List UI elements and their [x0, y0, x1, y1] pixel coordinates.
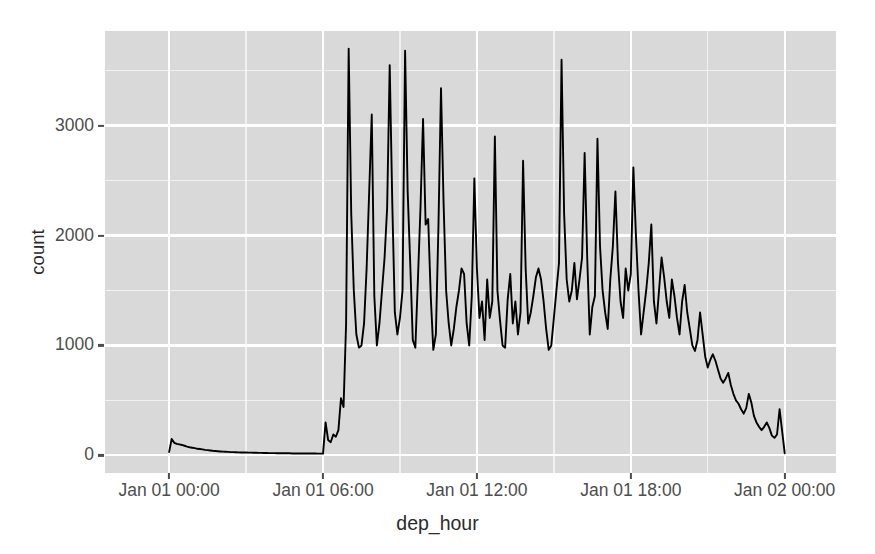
x-tick-label: Jan 01 06:00 — [272, 482, 373, 500]
x-tick-label: Jan 02 00:00 — [734, 482, 835, 500]
y-tick-label: 3000 — [55, 117, 94, 135]
y-tick-mark — [98, 344, 104, 346]
chart-figure: 0100020003000 count Jan 01 00:00Jan 01 0… — [0, 0, 875, 554]
x-tick-mark — [784, 473, 786, 479]
y-tick-label: 1000 — [55, 337, 94, 355]
x-tick-label: Jan 01 12:00 — [426, 482, 527, 500]
y-tick-mark — [98, 234, 104, 236]
y-tick-label: 0 — [84, 447, 94, 465]
x-axis-title: dep_hour — [0, 512, 875, 535]
x-tick-label: Jan 01 00:00 — [119, 482, 220, 500]
plot-panel — [105, 31, 836, 473]
x-tick-label: Jan 01 18:00 — [580, 482, 681, 500]
y-tick-mark — [98, 124, 104, 126]
x-tick-mark — [168, 473, 170, 479]
series-layer — [105, 31, 836, 473]
y-tick-label: 2000 — [55, 227, 94, 245]
x-tick-mark — [322, 473, 324, 479]
y-tick-mark — [98, 454, 104, 456]
count-line-series — [105, 31, 836, 473]
y-axis-title: count — [27, 229, 49, 274]
x-tick-mark — [630, 473, 632, 479]
x-tick-mark — [476, 473, 478, 479]
